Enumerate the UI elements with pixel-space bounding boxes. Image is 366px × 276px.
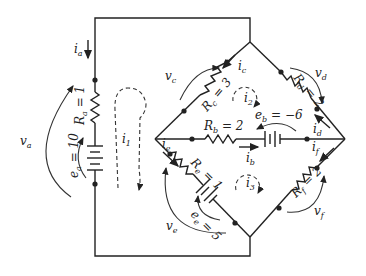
svg-text:ic: ic <box>238 59 247 75</box>
svg-text:id: id <box>313 122 322 138</box>
svg-text:vc: vc <box>165 69 177 85</box>
svg-text:ia: ia <box>74 42 83 58</box>
loop-i1: i1 <box>115 88 146 190</box>
branch-e: ie Re = 1 ee = 5 ve <box>155 137 250 245</box>
resistor-ra-icon <box>91 92 99 123</box>
branch-d: Rd = 2 vd id <box>250 42 345 139</box>
svg-text:if: if <box>312 140 321 156</box>
resistor-rb-icon <box>205 135 236 143</box>
svg-text:vf: vf <box>314 204 326 220</box>
svg-text:eb = −6: eb = −6 <box>255 108 303 124</box>
branch-a: ia Ra = 1 ea = 10 va <box>20 40 103 197</box>
svg-text:va: va <box>20 134 32 150</box>
svg-text:ee = 5: ee = 5 <box>186 207 224 245</box>
svg-text:Rf = 2: Rf = 2 <box>288 164 326 202</box>
svg-text:ea = 10: ea = 10 <box>67 133 83 178</box>
svg-text:Rc = 3: Rc = 3 <box>198 75 236 116</box>
battery-ea-icon <box>87 146 103 170</box>
svg-text:Ra = 1: Ra = 1 <box>73 86 89 126</box>
loop-i2: i2 <box>233 87 257 107</box>
svg-text:i2: i2 <box>244 91 253 107</box>
battery-eb-icon <box>265 131 280 147</box>
svg-text:ve: ve <box>166 219 178 235</box>
loop-i3: i3 <box>236 175 260 193</box>
branch-f: if Rf = 2 vf <box>250 139 345 237</box>
svg-text:i3: i3 <box>246 176 255 192</box>
svg-text:i1: i1 <box>122 132 131 148</box>
svg-text:ib: ib <box>246 151 255 167</box>
svg-text:Rb = 2: Rb = 2 <box>203 119 244 135</box>
circuit-diagram: ia Ra = 1 ea = 10 va ic Rc = 3 vc Rd = 2… <box>0 0 366 276</box>
svg-text:vd: vd <box>315 66 327 82</box>
